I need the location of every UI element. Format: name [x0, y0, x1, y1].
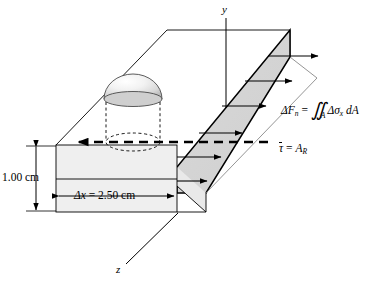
- tau-bar-symbol: τ: [279, 143, 283, 155]
- shear-area-subscript: R: [302, 147, 307, 156]
- z-axis: [126, 213, 178, 264]
- width-delta-symbol: Δ: [74, 189, 81, 201]
- normal-force-F: F: [288, 104, 295, 116]
- normal-force-equation: ΔFn = ∬AΔσx dA: [281, 98, 359, 118]
- width-value-text: = 2.50 cm: [86, 189, 135, 201]
- width-dimension-label: Δx = 2.50 cm: [74, 190, 135, 202]
- shear-equation: τ = AR: [279, 143, 307, 156]
- z-axis-label: z: [116, 264, 120, 275]
- diagram-canvas: [0, 0, 377, 284]
- shear-equals: =: [283, 142, 295, 154]
- normal-force-delta: Δ: [281, 104, 288, 116]
- y-axis-label: y: [222, 4, 227, 15]
- integral-area-subscript: A: [321, 111, 326, 120]
- differential-area: dA: [343, 104, 359, 116]
- beam-front-face: [56, 145, 177, 212]
- beam-stress-diagram: y z 1.00 cm Δx = 2.50 cm ΔFn = ∬AΔσx dA …: [0, 0, 377, 284]
- height-dimension-label: 1.00 cm: [2, 172, 39, 184]
- normal-force-equals: =: [299, 104, 311, 116]
